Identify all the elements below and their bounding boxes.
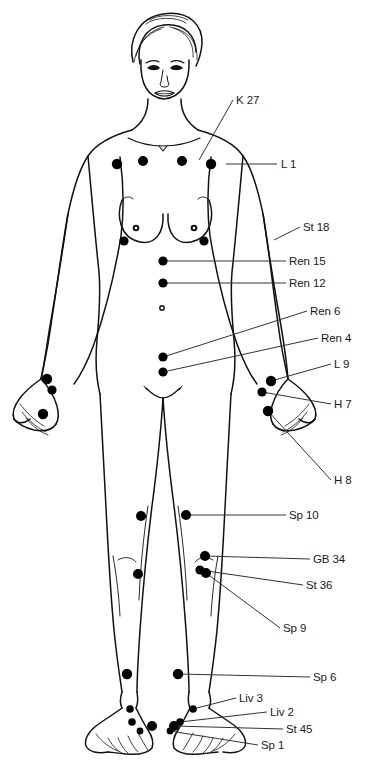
point-label-sp6: Sp 6 [313,671,336,683]
acupoint-st18-right[interactable] [199,236,208,245]
acupoint-k27-right[interactable] [177,156,187,166]
leader-line-l9 [271,364,331,381]
point-label-l1: L 1 [281,158,296,170]
point-label-ren4: Ren 4 [321,332,352,344]
acupoint-st45-left[interactable] [147,721,157,731]
acupoint-l9-right[interactable] [266,376,276,386]
acupoint-h7-left[interactable] [47,385,56,394]
point-labels: K 27L 1St 18Ren 15Ren 12Ren 6Ren 4L 9H 7… [236,94,352,751]
point-label-l9: L 9 [334,358,349,370]
acupoint-sp10-right[interactable] [181,510,191,520]
acupoint-st18-left[interactable] [119,236,128,245]
acupoint-h8-left[interactable] [38,409,48,419]
leader-line-ren4 [163,338,318,372]
point-label-ren15: Ren 15 [289,255,325,267]
leader-line-st45 [174,726,283,729]
acupoint-ren12[interactable] [158,278,167,287]
acupoint-l1-left[interactable] [112,159,122,169]
acupoint-k27-left[interactable] [138,156,148,166]
acupoint-ren6[interactable] [158,352,167,361]
leader-line-liv2 [180,712,267,722]
acupoint-ren15[interactable] [158,256,167,265]
acupoint-ren4[interactable] [158,367,167,376]
leader-line-sp9 [206,573,280,628]
acupoint-h8-right[interactable] [263,406,273,416]
point-label-h7: H 7 [334,398,352,410]
acupoint-sp9-left[interactable] [133,569,143,579]
acupoint-sp10-left[interactable] [136,511,146,521]
leader-line-sp6 [178,674,310,677]
point-label-ren6: Ren 6 [310,305,340,317]
acupoints [38,156,276,734]
acupoint-l9-left[interactable] [42,374,52,384]
acupoint-h7-right[interactable] [257,387,266,396]
point-label-h8: H 8 [334,474,352,486]
point-label-liv3: Liv 3 [239,692,263,704]
acupoint-sp1-left[interactable] [137,728,144,735]
acupoint-gb34[interactable] [200,551,210,561]
acupoint-liv3-left[interactable] [126,705,134,713]
point-label-sp1: Sp 1 [261,739,284,751]
point-label-st18: St 18 [303,221,329,233]
point-label-sp10: Sp 10 [289,509,319,521]
point-label-k27: K 27 [236,94,259,106]
acupoint-navel[interactable] [160,306,164,310]
acupoint-l1-right[interactable] [206,159,216,169]
point-label-liv2: Liv 2 [270,706,294,718]
leader-line-liv3 [193,698,236,709]
leader-line-st36 [200,570,303,585]
leader-line-st18 [274,227,300,240]
point-label-st45: St 45 [286,723,312,735]
acupoint-sp9-right[interactable] [201,568,211,578]
leader-line-k27 [199,100,233,160]
acupoint-sp6-right[interactable] [173,669,183,679]
leader-line-h8 [268,411,331,480]
acupuncture-chart: K 27L 1St 18Ren 15Ren 12Ren 6Ren 4L 9H 7… [0,0,377,767]
acupoint-sp1-right[interactable] [167,728,174,735]
acupoint-liv3-right[interactable] [189,705,197,713]
point-label-gb34: GB 34 [313,553,346,565]
body-diagram: K 27L 1St 18Ren 15Ren 12Ren 6Ren 4L 9H 7… [0,0,377,767]
point-label-sp9: Sp 9 [283,622,306,634]
leader-line-h7 [262,392,331,404]
point-label-st36: St 36 [306,579,332,591]
acupoint-sp6-left[interactable] [122,669,132,679]
acupoint-liv2-left[interactable] [128,718,136,726]
leader-line-gb34 [205,556,310,559]
point-label-ren12: Ren 12 [289,277,325,289]
